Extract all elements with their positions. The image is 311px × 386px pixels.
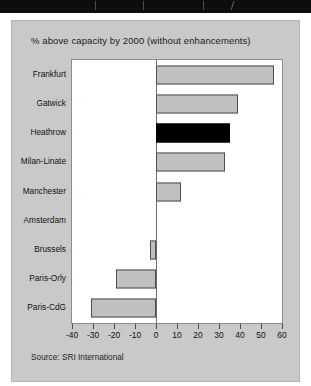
category-label-paris-orly: Paris-Orly (29, 273, 66, 283)
x-tick-label: 0 (154, 330, 159, 340)
x-tick-label: 50 (256, 330, 265, 340)
bar-paris-cdg (91, 299, 156, 318)
x-tick-label: 30 (214, 330, 223, 340)
category-label-paris-cdg: Paris-CdG (27, 302, 66, 312)
x-tick (135, 324, 136, 329)
x-tick-label: -10 (129, 330, 141, 340)
category-label-milan-linate: Milan-Linate (21, 156, 66, 166)
bar-series (72, 60, 282, 323)
category-axis-labels: FrankfurtGatwickHeathrowMilan-LinateManc… (12, 59, 69, 324)
figure-root: % above capacity by 2000 (without enhanc… (0, 0, 311, 386)
x-tick-label: -30 (87, 330, 99, 340)
x-tick-label: 60 (277, 330, 286, 340)
x-axis-tick-labels: -40-30-20-100102030405060 (71, 330, 283, 344)
bar-heathrow (156, 124, 230, 143)
banner-tick (143, 1, 144, 10)
x-tick-label: -40 (66, 330, 78, 340)
bar-brussels (150, 240, 156, 259)
category-label-frankfurt: Frankfurt (33, 69, 66, 79)
x-tick (156, 324, 157, 329)
banner-tick (203, 1, 204, 10)
chart-title: % above capacity by 2000 (without enhanc… (31, 35, 251, 46)
top-banner (0, 0, 311, 13)
category-label-manchester: Manchester (23, 186, 66, 196)
bar-milan-linate (156, 153, 225, 172)
x-tick (240, 324, 241, 329)
category-label-heathrow: Heathrow (30, 127, 66, 137)
source-note: Source: SRI International (31, 352, 124, 362)
bar-paris-orly (116, 270, 156, 289)
banner-tick (95, 1, 96, 10)
category-label-brussels: Brussels (34, 244, 66, 254)
x-tick (261, 324, 262, 329)
plot-area (71, 59, 283, 324)
bar-manchester (156, 182, 181, 201)
x-tick (114, 324, 115, 329)
x-tick (93, 324, 94, 329)
bar-frankfurt (156, 65, 274, 84)
x-tick (198, 324, 199, 329)
x-tick-label: 10 (172, 330, 181, 340)
x-tick (177, 324, 178, 329)
x-tick (282, 324, 283, 329)
x-tick-label: 40 (235, 330, 244, 340)
x-tick-label: -20 (108, 330, 120, 340)
banner-slash (231, 1, 235, 10)
x-tick (72, 324, 73, 329)
bar-gatwick (156, 94, 238, 113)
x-tick (219, 324, 220, 329)
category-label-amsterdam: Amsterdam (24, 215, 66, 225)
category-label-gatwick: Gatwick (36, 98, 66, 108)
x-tick-label: 20 (193, 330, 202, 340)
chart-card: % above capacity by 2000 (without enhanc… (11, 20, 300, 382)
